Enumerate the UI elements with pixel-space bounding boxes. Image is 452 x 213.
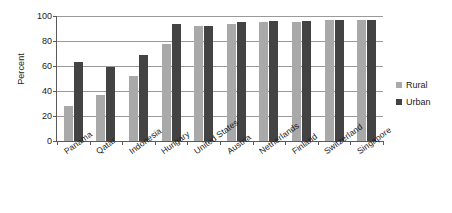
bar-rural <box>129 76 138 141</box>
bar-group <box>187 16 220 141</box>
bar-rural <box>64 106 73 141</box>
y-tick-label: 100 <box>37 11 52 21</box>
bar-group <box>122 16 155 141</box>
x-tick-mark <box>285 141 286 145</box>
bar-group <box>285 16 318 141</box>
bar-group <box>253 16 286 141</box>
x-tick-mark <box>122 141 123 145</box>
bars-layer <box>57 16 383 141</box>
bar-urban <box>302 21 311 141</box>
bar-urban <box>204 26 213 141</box>
bar-urban <box>269 21 278 141</box>
y-tick-label: 60 <box>42 61 52 71</box>
bar-group <box>57 16 90 141</box>
x-tick-mark <box>90 141 91 145</box>
x-tick-mark <box>383 141 384 145</box>
bar-urban <box>335 20 344 141</box>
bar-rural <box>325 20 334 141</box>
legend-swatch-urban-icon <box>396 99 402 105</box>
x-axis-labels: PanamaQatarIndonesiaHungaryUnited States… <box>57 148 397 210</box>
bar-urban <box>172 24 181 142</box>
bar-group <box>90 16 123 141</box>
x-tick-mark <box>57 141 58 145</box>
x-tick-mark <box>220 141 221 145</box>
y-tick-label: 80 <box>42 36 52 46</box>
y-tick-label: 40 <box>42 86 52 96</box>
x-tick-mark <box>155 141 156 145</box>
bar-rural <box>194 26 203 141</box>
bar-urban <box>74 62 83 141</box>
bar-urban <box>139 55 148 141</box>
legend-item-rural: Rural <box>396 78 452 92</box>
x-tick-mark <box>350 141 351 145</box>
plot-area: 020406080100 <box>57 16 383 141</box>
y-tick-label: 0 <box>47 136 52 146</box>
bar-urban <box>367 20 376 141</box>
legend-label-rural: Rural <box>406 80 428 90</box>
x-tick-mark <box>253 141 254 145</box>
bar-group <box>318 16 351 141</box>
bar-chart: Percent 020406080100 PanamaQatarIndonesi… <box>0 0 452 213</box>
bar-rural <box>96 95 105 141</box>
bar-urban <box>106 67 115 141</box>
y-tick-label: 20 <box>42 111 52 121</box>
x-tick-mark <box>318 141 319 145</box>
chart-legend: Rural Urban <box>396 78 452 112</box>
legend-label-urban: Urban <box>406 97 431 107</box>
y-axis-title: Percent <box>16 39 26 99</box>
legend-swatch-rural-icon <box>396 82 402 88</box>
bar-rural <box>162 44 171 142</box>
x-tick-mark <box>187 141 188 145</box>
legend-item-urban: Urban <box>396 95 452 109</box>
bar-group <box>155 16 188 141</box>
bar-rural <box>259 22 268 141</box>
